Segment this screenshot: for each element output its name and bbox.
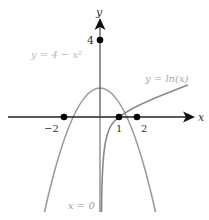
point-2-0 <box>134 114 141 121</box>
asymptote-label: x = 0 <box>68 200 95 211</box>
label-1: 1 <box>116 123 122 134</box>
label-2: 2 <box>141 123 147 134</box>
y-axis-label: y <box>95 6 103 19</box>
x-axis-label: x <box>198 111 205 124</box>
point-0-4 <box>97 37 104 44</box>
ln-curve <box>102 85 189 212</box>
graph-canvas: y x 4 −2 1 2 y = 4 − x² y = ln(x) x = 0 <box>0 0 209 220</box>
point-1-0 <box>116 114 123 121</box>
label-neg2: −2 <box>44 123 59 134</box>
ln-label: y = ln(x) <box>144 73 189 84</box>
parabola-label: y = 4 − x² <box>30 49 82 60</box>
point-neg2-0 <box>61 114 68 121</box>
label-4: 4 <box>87 34 94 47</box>
